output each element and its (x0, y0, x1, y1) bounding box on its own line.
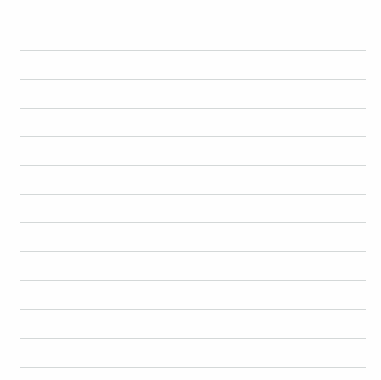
ruled-line (20, 165, 366, 166)
ruled-line (20, 309, 366, 310)
ruled-line (20, 194, 366, 195)
ruled-line (20, 222, 366, 223)
ruled-line (20, 367, 366, 368)
ruled-line (20, 338, 366, 339)
ruled-line (20, 79, 366, 80)
ruled-line (20, 280, 366, 281)
ruled-line (20, 50, 366, 51)
ruled-line (20, 136, 366, 137)
ruled-line (20, 108, 366, 109)
lined-paper (0, 0, 381, 380)
ruled-line (20, 251, 366, 252)
